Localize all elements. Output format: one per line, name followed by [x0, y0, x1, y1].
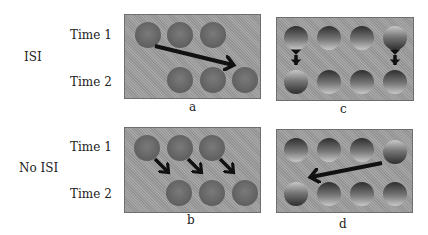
element-arrow-3 [220, 159, 233, 172]
time2-label-isi: Time 2 [70, 76, 112, 88]
element-arrow-2 [188, 159, 201, 172]
caption-a: a [189, 101, 196, 113]
panel-b [124, 127, 261, 213]
time1-label-noisi: Time 1 [70, 141, 112, 153]
caption-c: c [340, 103, 347, 115]
disk-group-time2 [167, 67, 258, 93]
panel-b-graphic [125, 128, 262, 214]
panel-d [276, 129, 413, 213]
panel-c-graphic [277, 18, 415, 102]
group-motion-arrow [155, 46, 233, 65]
time2-label-noisi: Time 2 [70, 188, 112, 200]
panel-a-graphic [125, 15, 262, 100]
panel-d-graphic [277, 130, 414, 214]
caption-d: d [339, 218, 347, 230]
condition-label-noisi: No ISI [19, 162, 58, 174]
element-arrow-1 [155, 159, 168, 172]
time1-label-isi: Time 1 [70, 29, 112, 41]
panel-c [276, 17, 414, 101]
diagonal-motion-arrow [311, 163, 382, 177]
disk-group-time1 [135, 22, 226, 48]
caption-b: b [187, 214, 195, 226]
panel-a [124, 14, 261, 99]
condition-label-isi: ISI [24, 51, 42, 63]
